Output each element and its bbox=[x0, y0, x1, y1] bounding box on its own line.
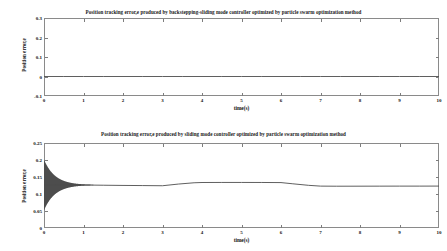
series-line-top bbox=[0, 0, 447, 125]
figure-canvas: Position tracking error,e produced by ba… bbox=[0, 0, 447, 251]
chart-panel-bottom: Position tracking error,e produced by sl… bbox=[0, 125, 447, 251]
chart-panel-top: Position tracking error,e produced by ba… bbox=[0, 0, 447, 125]
series-line-bottom bbox=[0, 125, 447, 251]
